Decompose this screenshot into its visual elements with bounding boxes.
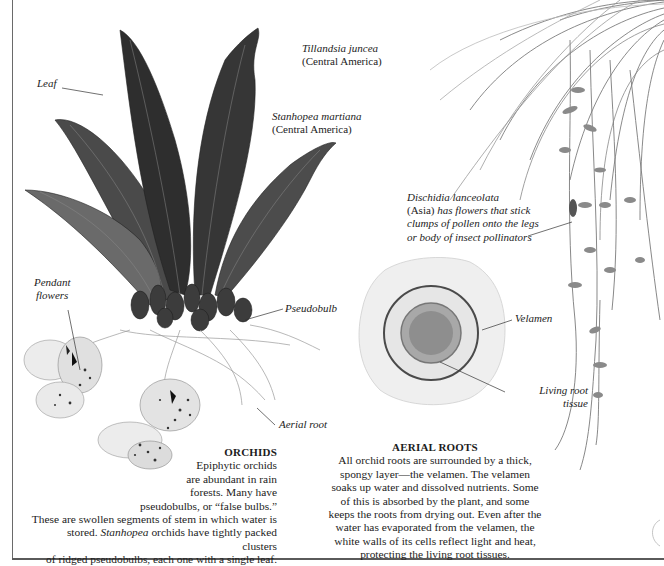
aerial-roots-line: keeps the roots from drying out. Even af… — [290, 508, 580, 521]
orchids-line: pseudobulbs, or “false bulbs.” — [30, 500, 277, 513]
orchids-heading: ORCHIDS — [30, 446, 277, 459]
orchids-line: These are swollen segments of stem in wh… — [30, 513, 277, 526]
caption-dischidia: Dischidia lanceolata (Asia) has flowers … — [407, 191, 539, 244]
dischidia-line1: has flowers that stick — [435, 204, 531, 216]
aerial-roots-line: All orchid roots are surrounded by a thi… — [290, 454, 580, 467]
dischidia-line2: clumps of pollen onto the legs — [407, 217, 539, 230]
caption-tillandsia: Tillandsia juncea (Central America) — [302, 42, 382, 68]
orchids-line: Epiphytic orchids — [30, 459, 277, 472]
orchids-line: are abundant in rain — [30, 473, 277, 486]
label-aerial-root: Aerial root — [279, 418, 327, 431]
label-pseudobulb: Pseudobulb — [285, 302, 337, 315]
stanhopea-region: (Central America) — [272, 123, 362, 136]
dischidia-line3: or body of insect pollinators — [407, 231, 539, 244]
aerial-roots-line: of this is absorbed by the plant, and so… — [290, 495, 580, 508]
aerial-root-leader-line — [257, 408, 275, 425]
decorative-stem — [653, 520, 661, 546]
leaf-leader-line — [62, 88, 103, 95]
aerial-roots-line: spongy layer—the velamen. The velamen — [290, 468, 580, 481]
label-leaf: Leaf — [37, 77, 57, 90]
aerial-roots-line: white walls of its cells reflect light a… — [290, 535, 580, 548]
orchids-line: of ridged pseudobulbs, each one with a s… — [30, 553, 277, 566]
dischidia-region: (Asia) — [407, 204, 435, 216]
aerial-roots-heading: AERIAL ROOTS — [290, 441, 580, 454]
root-cross-section — [359, 257, 505, 404]
aerial-roots-line: water has evaporated from the velamen, t… — [290, 521, 580, 534]
label-pendant-flowers-line2: flowers — [36, 289, 68, 302]
tillandsia-region: (Central America) — [302, 55, 382, 68]
dischidia-leaves — [559, 87, 645, 398]
stanhopea-leaves — [25, 28, 336, 305]
aerial-roots-line: soaks up water and dissolved nutrients. … — [290, 481, 580, 494]
dischidia-name: Dischidia lanceolata — [407, 191, 539, 204]
label-living-root-line2: tissue — [508, 397, 588, 410]
aerial-roots-text-block: AERIAL ROOTS All orchid roots are surrou… — [290, 441, 580, 562]
label-velamen: Velamen — [515, 312, 552, 325]
aerial-roots-line: protecting the living root tissues. — [290, 548, 580, 561]
orchids-line: forests. Many have — [30, 486, 277, 499]
orchids-line: stored. Stanhopea orchids have tightly p… — [30, 526, 277, 553]
label-pendant-flowers-line1: Pendant — [34, 276, 71, 289]
label-living-root-line1: Living root — [508, 384, 588, 397]
tillandsia-name: Tillandsia juncea — [302, 42, 382, 55]
orchids-text-block: ORCHIDS Epiphytic orchids are abundant i… — [30, 446, 277, 566]
stanhopea-name: Stanhopea martiana — [272, 110, 362, 123]
caption-stanhopea: Stanhopea martiana (Central America) — [272, 110, 362, 136]
